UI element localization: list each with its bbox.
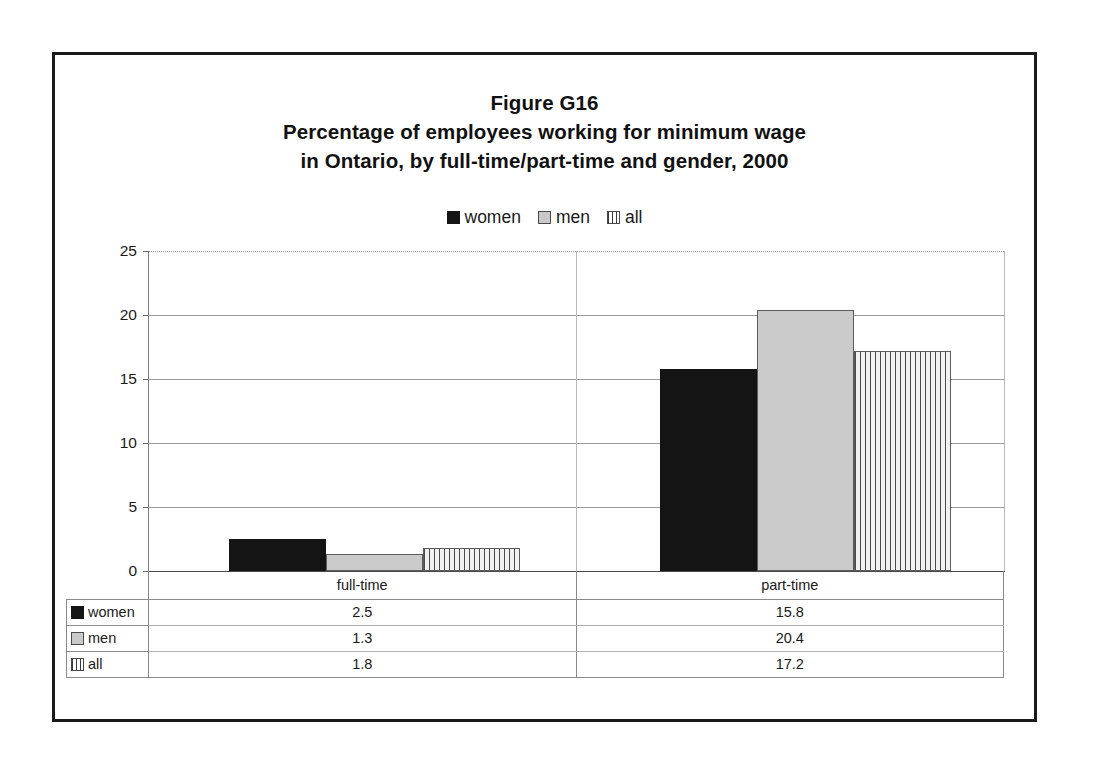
table-row-all: all 1.8 17.2 xyxy=(67,651,1004,677)
figure-frame: Figure G16 Percentage of employees worki… xyxy=(52,52,1037,722)
row-label-all: all xyxy=(67,651,149,677)
chart-legend: women men all xyxy=(55,207,1034,228)
data-table: full-time part-time women 2.5 15.8 men 1… xyxy=(66,571,1004,678)
light-gray-square-swatch-icon xyxy=(71,632,84,645)
striped-square-swatch-icon xyxy=(71,658,84,671)
cell-men-part-time: 20.4 xyxy=(576,625,1004,651)
row-label-women: women xyxy=(67,599,149,625)
title-line-3: in Ontario, by full-time/part-time and g… xyxy=(55,146,1034,175)
table-header-row: full-time part-time xyxy=(67,571,1004,599)
ytick-label-10: 10 xyxy=(120,434,137,452)
table-corner-cell xyxy=(67,571,149,599)
cell-all-part-time: 17.2 xyxy=(576,651,1004,677)
column-header-part-time: part-time xyxy=(576,571,1004,599)
ytick-15 xyxy=(143,379,149,380)
legend-item-men: men xyxy=(538,207,590,228)
cell-all-full-time: 1.8 xyxy=(149,651,577,677)
row-label-text-women: women xyxy=(88,604,135,620)
legend-item-women: women xyxy=(447,207,521,228)
cell-women-part-time: 15.8 xyxy=(576,599,1004,625)
ytick-label-25: 25 xyxy=(120,242,137,260)
title-line-1: Figure G16 xyxy=(55,88,1034,117)
bar-full-time-all xyxy=(423,548,520,571)
row-label-text-all: all xyxy=(88,656,103,672)
row-label-men: men xyxy=(67,625,149,651)
row-label-text-men: men xyxy=(88,630,116,646)
table-row-men: men 1.3 20.4 xyxy=(67,625,1004,651)
bar-part-time-women xyxy=(660,369,757,571)
ytick-10 xyxy=(143,443,149,444)
figure-title: Figure G16 Percentage of employees worki… xyxy=(55,88,1034,175)
ytick-25 xyxy=(143,251,149,252)
legend-label-men: men xyxy=(556,207,590,228)
bar-part-time-men xyxy=(757,310,854,571)
legend-item-all: all xyxy=(607,207,643,228)
table-row-women: women 2.5 15.8 xyxy=(67,599,1004,625)
ytick-5 xyxy=(143,507,149,508)
legend-label-all: all xyxy=(625,207,643,228)
cell-men-full-time: 1.3 xyxy=(149,625,577,651)
ytick-label-15: 15 xyxy=(120,370,137,388)
legend-label-women: women xyxy=(465,207,521,228)
striped-square-swatch-icon xyxy=(607,211,620,224)
black-square-swatch-icon xyxy=(447,211,460,224)
black-square-swatch-icon xyxy=(71,606,84,619)
plot-area: 25 20 15 10 5 0 xyxy=(148,251,1005,571)
category-separator xyxy=(576,251,577,571)
cell-women-full-time: 2.5 xyxy=(149,599,577,625)
bar-part-time-all xyxy=(854,351,951,571)
bar-full-time-women xyxy=(229,539,326,571)
light-gray-square-swatch-icon xyxy=(538,211,551,224)
bar-full-time-men xyxy=(326,554,423,571)
column-header-full-time: full-time xyxy=(149,571,577,599)
ytick-label-5: 5 xyxy=(128,498,137,516)
title-line-2: Percentage of employees working for mini… xyxy=(55,117,1034,146)
ytick-20 xyxy=(143,315,149,316)
ytick-label-20: 20 xyxy=(120,306,137,324)
